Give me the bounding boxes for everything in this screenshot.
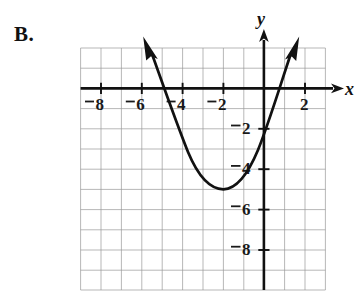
x-tick-label--8: 8 [85,95,104,114]
x-tick-label-text-2: 2 [218,95,227,114]
x-tick-label-text-4: 4 [177,95,186,114]
x-tick-label--6: 6 [126,95,145,114]
x-axis-label: x [344,79,354,99]
y-tick-label-text-2: 2 [242,119,251,138]
grid-lines [81,48,326,290]
x-tick-label-text-pos2: 2 [300,95,309,114]
figure-container: B. [0,0,358,304]
x-tick-label--2: 2 [207,95,226,114]
y-tick-label-text-8: 8 [242,240,251,259]
coordinate-plane-svg: 8 6 4 2 2 [0,0,358,304]
x-tick-label-text-6: 6 [136,95,145,114]
y-axis-label: y [255,9,266,29]
x-tick-label-text-8: 8 [96,95,105,114]
x-tick-label-2: 2 [300,95,309,114]
graph-area: 8 6 4 2 2 [0,0,358,304]
y-tick-label-text-6: 6 [242,200,251,219]
